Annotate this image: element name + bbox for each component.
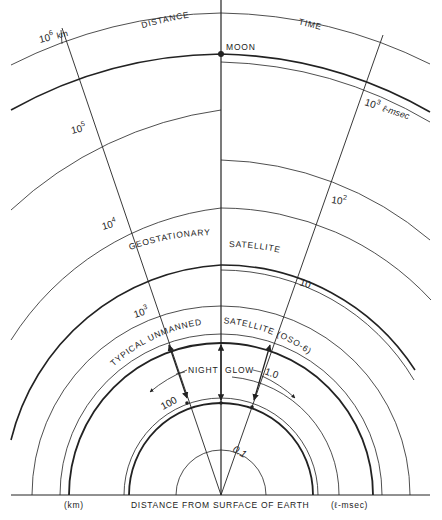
baseline-unit-km: (km) [64,500,84,510]
arc-geostationary-thick [11,265,415,440]
earth-distance-time-diagram: DISTANCE TIME 106km 105 104 103 100 103ℓ… [0,0,442,520]
tick-10e4-km: 104 [100,215,118,232]
label-night: NIGHT [188,365,218,375]
label-moon: MOON [226,42,256,52]
label-glow: GLOW [225,365,254,375]
tick-10e2-msec: 102 [331,192,348,207]
tick-10e5-km: 105 [69,120,87,136]
title-distance: DISTANCE [140,9,190,30]
radial-time [221,35,383,495]
title-time: TIME [298,16,323,32]
label-geostationary: GEOSTATIONARY [127,227,210,252]
dot-100km-right [250,405,254,409]
label-geostationary-satellite: SATELLITE [229,239,282,255]
dot-100km-center [219,401,223,405]
tick-1.0-msec: 1.0 [263,366,280,381]
dot-100km-left [185,401,189,405]
baseline-unit-lmsec: (ℓ-msec) [331,500,368,510]
radial-lines [62,0,383,495]
moon-dot [218,51,224,57]
arc-night-glow [232,377,339,495]
baseline-caption: DISTANCE FROM SURFACE OF EARTH [131,500,309,510]
arc-10e5-km [11,110,221,210]
glow-leader [253,370,261,372]
arrow-night-glow-right [262,376,295,398]
tick-10e3-km: 103 [132,303,150,320]
label-typical-unmanned: TYPICAL UNMANNED [108,317,202,368]
